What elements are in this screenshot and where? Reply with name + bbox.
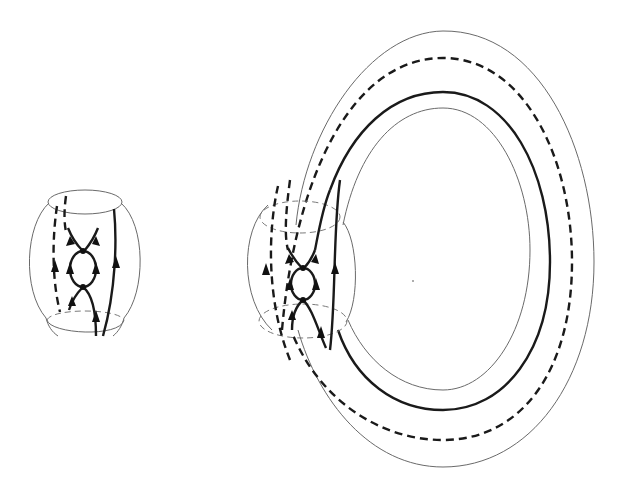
cylinder-vertex-top (80, 248, 86, 254)
torus-bulge-left-wall (247, 205, 272, 330)
torus-ring-connector (315, 190, 330, 250)
torus-bulge-right-wall (343, 222, 355, 322)
arrow-icon (51, 260, 59, 272)
torus-vertex-top (300, 265, 306, 271)
torus-dashed-strand-2 (286, 180, 290, 250)
torus-dashed-ring (282, 58, 572, 440)
cylinder-right-wall (113, 203, 140, 336)
cylinder-bottom-boundary-front (47, 320, 124, 332)
arrow-icon (262, 263, 270, 275)
speck (412, 280, 414, 282)
arrow-icon (331, 262, 339, 274)
cylinder-right-strand (103, 209, 115, 336)
cylinder-bottom-boundary-back (47, 311, 124, 320)
figure (0, 0, 621, 493)
torus (247, 31, 594, 467)
arrow-icon (92, 262, 100, 274)
torus-lower-right-arc (303, 300, 326, 348)
cylinder-piece (29, 190, 140, 336)
torus-loop (291, 268, 315, 300)
arrow-icon (112, 256, 120, 268)
arrow-icon (66, 262, 74, 274)
cylinder-top-boundary (48, 190, 122, 214)
arrow-icon (312, 278, 320, 290)
torus-solid-ring (330, 92, 550, 410)
cylinder-vertex-bottom (80, 284, 86, 290)
cylinder-dashed-strand (54, 206, 60, 312)
torus-vertex-bottom (300, 297, 306, 303)
cylinder-dashed-strand-2 (65, 196, 67, 232)
cylinder-loop (70, 251, 96, 287)
torus-inner-boundary (343, 108, 530, 390)
